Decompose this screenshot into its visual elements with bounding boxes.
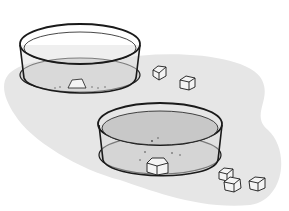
dish-cube [147,158,168,175]
upper-dish [20,24,140,93]
loose-cube [249,177,265,191]
illustration-scene [0,0,289,211]
loose-cube [180,76,195,90]
illustration-svg [0,0,289,211]
